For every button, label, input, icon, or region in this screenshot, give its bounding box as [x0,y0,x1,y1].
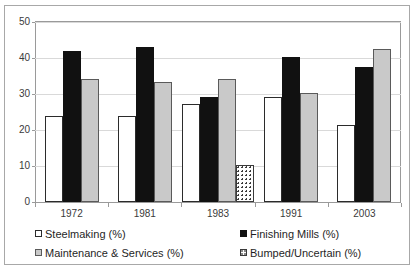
y-tick-label-20: 20 [19,125,30,135]
x-tick-label-2003: 2003 [353,209,375,219]
bar-1983-steelmaking [182,104,200,202]
x-tick-label-1983: 1983 [207,209,229,219]
plot-area: 01020304050 19721981198319912003 [35,21,401,203]
bar-group-1991 [264,22,318,202]
y-tick-label-10: 10 [19,161,30,171]
bar-1972-finishing-mills [63,51,81,202]
bar-1991-maintenance-services [300,93,318,202]
legend-swatch-icon-maintenance-services [35,249,42,256]
x-tick-label-1981: 1981 [134,209,156,219]
legend-label-steelmaking: Steelmaking (%) [45,228,126,240]
y-tick-mark-10 [32,166,35,167]
x-tick-mark-1972 [35,203,36,207]
y-tick-label-30: 30 [19,89,30,99]
x-tick-mark-2003 [328,203,329,207]
y-tick-label-50: 50 [19,17,30,27]
bar-1972-maintenance-services [81,79,99,202]
bar-1981-maintenance-services [154,82,172,202]
x-tick-mark-1983 [181,203,182,207]
legend-item-maintenance-services[interactable]: Maintenance & Services (%) [35,247,240,259]
bar-1983-maintenance-services [218,79,236,202]
legend-label-finishing-mills: Finishing Mills (%) [250,228,339,240]
chart-legend: Steelmaking (%)Finishing Mills (%)Mainte… [35,224,401,262]
x-tick-mark-1981 [108,203,109,207]
bar-2003-finishing-mills [355,67,373,202]
y-tick-label-40: 40 [19,53,30,63]
bar-1991-steelmaking [264,97,282,202]
legend-swatch-icon-bumped-uncertain [240,249,247,256]
x-tick-label-1972: 1972 [60,209,82,219]
x-tick-label-1991: 1991 [280,209,302,219]
legend-swatch-icon-finishing-mills [240,230,247,237]
x-tick-mark-end [401,203,402,207]
bar-2003-steelmaking [337,125,355,202]
x-tick-mark-1991 [255,203,256,207]
y-tick-mark-40 [32,58,35,59]
bar-1983-finishing-mills [200,97,218,202]
bar-1983-bumped-uncertain [236,165,254,202]
legend-label-maintenance-services: Maintenance & Services (%) [45,247,184,259]
y-tick-mark-20 [32,130,35,131]
bar-1981-finishing-mills [136,47,154,202]
legend-label-bumped-uncertain: Bumped/Uncertain (%) [250,247,361,259]
legend-swatch-icon-steelmaking [35,230,42,237]
bar-1981-steelmaking [118,116,136,202]
legend-item-finishing-mills[interactable]: Finishing Mills (%) [240,228,339,240]
bar-1991-finishing-mills [282,57,300,202]
bar-1972-steelmaking [45,116,63,202]
y-tick-label-0: 0 [24,197,30,207]
bar-group-1981 [118,22,172,202]
legend-item-steelmaking[interactable]: Steelmaking (%) [35,228,240,240]
y-tick-mark-30 [32,94,35,95]
chart-frame: 01020304050 19721981198319912003 Steelma… [4,5,410,265]
legend-item-bumped-uncertain[interactable]: Bumped/Uncertain (%) [240,247,361,259]
y-tick-mark-50 [32,22,35,23]
bar-group-2003 [337,22,391,202]
bar-group-1983 [182,22,254,202]
bar-group-1972 [45,22,99,202]
bar-2003-maintenance-services [373,49,391,202]
